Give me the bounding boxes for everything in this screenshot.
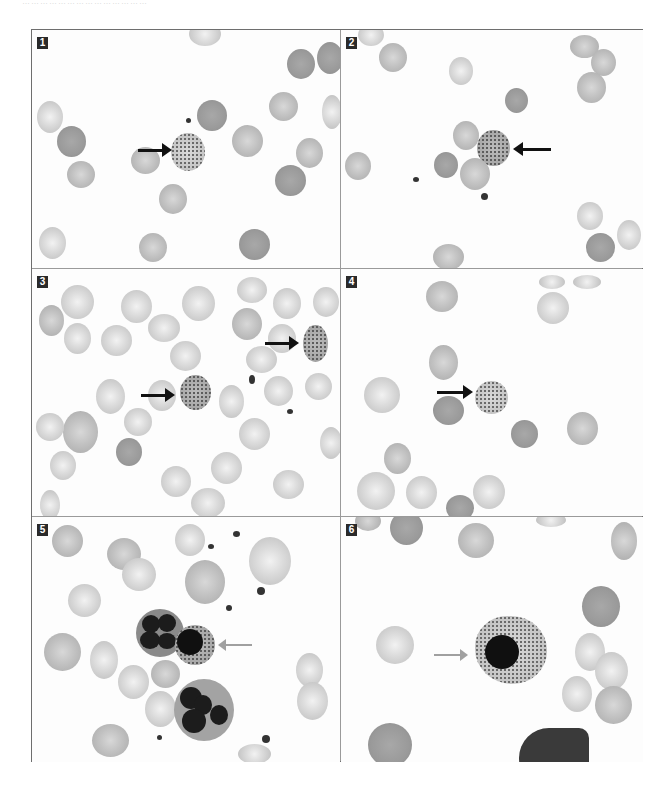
red-cell: [68, 584, 101, 617]
red-cell: [63, 411, 98, 453]
red-cell: [305, 373, 332, 400]
red-cell: [50, 451, 76, 480]
panel-5: 5: [32, 517, 340, 762]
platelet: [262, 735, 270, 743]
red-cell: [92, 724, 129, 757]
red-cell: [57, 126, 86, 157]
arrow-right-icon: [437, 391, 465, 394]
red-cell: [505, 88, 528, 113]
red-cell: [345, 152, 371, 180]
red-cell: [249, 537, 291, 585]
red-cell: [364, 377, 400, 413]
red-cell: [357, 472, 395, 510]
red-cell: [64, 323, 91, 354]
platelet: [186, 118, 191, 123]
platelet: [157, 735, 162, 740]
platelet: [208, 544, 214, 549]
red-cell: [39, 305, 64, 336]
red-cell: [39, 227, 66, 259]
red-cell: [246, 346, 277, 373]
red-cell: [539, 275, 565, 289]
red-cell: [426, 281, 458, 312]
red-cell: [197, 100, 227, 131]
red-cell: [355, 517, 381, 531]
red-cell: [358, 30, 384, 46]
cropped-caption-text: ……………………………………: [22, 0, 282, 4]
red-cell: [238, 744, 271, 762]
platelet: [481, 193, 488, 200]
red-cell: [473, 475, 505, 509]
red-cell: [595, 652, 628, 690]
red-cell: [562, 676, 592, 712]
red-cell: [537, 292, 569, 324]
red-cell: [511, 420, 538, 448]
panel-4: 4: [341, 269, 643, 516]
panel-1: 1: [32, 30, 340, 268]
stippled-red-cell: [180, 375, 211, 410]
red-cell: [232, 125, 263, 157]
red-cell: [433, 396, 464, 425]
arrow-left-icon: [224, 644, 252, 646]
red-cell: [96, 379, 125, 414]
nucleated-red-cell: [175, 625, 215, 665]
red-cell: [148, 314, 180, 342]
platelet: [287, 409, 293, 414]
red-cell: [595, 686, 632, 724]
red-cell: [296, 138, 323, 168]
red-cell: [320, 427, 340, 459]
red-cell: [273, 288, 301, 319]
red-cell: [232, 308, 262, 340]
red-cell: [577, 72, 606, 103]
red-cell: [458, 523, 494, 558]
red-cell: [239, 418, 270, 450]
red-cell: [368, 723, 412, 762]
red-cell: [376, 626, 414, 664]
red-cell: [264, 376, 293, 406]
panel-2: 2: [341, 30, 643, 268]
red-cell: [36, 413, 64, 441]
red-cell: [191, 488, 225, 516]
platelet: [257, 587, 265, 595]
red-cell: [61, 285, 94, 319]
red-cell: [313, 287, 339, 317]
red-cell: [37, 101, 63, 133]
red-cell: [182, 286, 215, 321]
red-cell: [573, 275, 601, 289]
red-cell: [379, 43, 407, 72]
panel-label: 3: [37, 276, 48, 288]
red-cell: [237, 277, 267, 303]
red-cell: [44, 633, 81, 671]
red-cell: [159, 184, 187, 214]
red-cell: [384, 443, 411, 474]
red-cell: [219, 385, 244, 418]
red-cell: [211, 452, 242, 484]
panel-label: 2: [346, 37, 357, 49]
red-cell: [317, 42, 340, 74]
panel-label: 5: [37, 524, 48, 536]
panel-3: 3: [32, 269, 340, 516]
red-cell: [460, 158, 490, 190]
red-cell: [175, 524, 205, 556]
panel-label: 4: [346, 276, 357, 288]
arrow-right-icon: [141, 394, 167, 397]
arrow-right-icon: [265, 342, 291, 345]
red-cell: [390, 517, 423, 545]
red-cell: [67, 161, 95, 188]
stippled-red-cell: [475, 381, 508, 414]
platelet: [226, 605, 232, 611]
arrow-left-icon: [521, 148, 551, 151]
dark-cell: [519, 728, 589, 762]
stippled-red-cell: [303, 325, 328, 362]
red-cell: [52, 525, 83, 557]
red-cell: [145, 691, 176, 727]
red-cell: [567, 412, 598, 445]
panel-divider: [32, 268, 642, 269]
red-cell: [577, 202, 603, 230]
red-cell: [582, 586, 620, 627]
red-cell: [429, 345, 458, 380]
red-cell: [101, 325, 132, 356]
red-cell: [185, 560, 225, 604]
red-cell: [151, 660, 180, 688]
red-cell: [170, 341, 201, 371]
red-cell: [611, 522, 637, 560]
